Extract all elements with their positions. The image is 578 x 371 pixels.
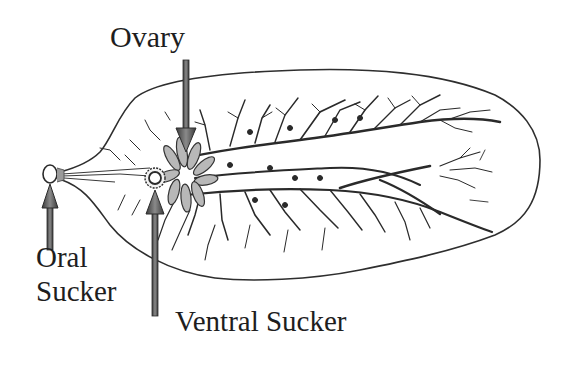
anterior-ducts	[62, 168, 150, 182]
ventral-sucker-arrow	[146, 190, 164, 316]
ventral-sucker-label: Ventral Sucker	[175, 307, 347, 336]
oral-sucker	[43, 165, 64, 183]
oral-sucker-label: Oral Sucker	[36, 240, 117, 308]
ventral-sucker	[145, 168, 165, 188]
oral-sucker-label-line1: Oral	[36, 240, 117, 274]
ovary-label: Ovary	[110, 22, 185, 52]
oral-sucker-label-line2: Sucker	[36, 274, 117, 308]
